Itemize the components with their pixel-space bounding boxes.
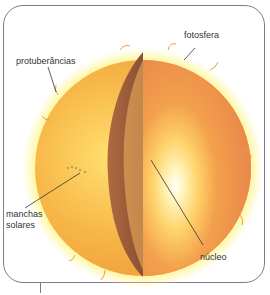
label-prominences: protuberâncias	[16, 56, 76, 66]
label-core: núcleo	[200, 252, 227, 262]
label-photosphere: fotosfera	[184, 30, 219, 40]
label-sunspots-line2: solares	[6, 220, 35, 230]
leader-prominences	[48, 67, 56, 92]
label-sunspots-line1: manchas	[6, 209, 43, 219]
sun-cutaway-illustration	[0, 0, 270, 295]
